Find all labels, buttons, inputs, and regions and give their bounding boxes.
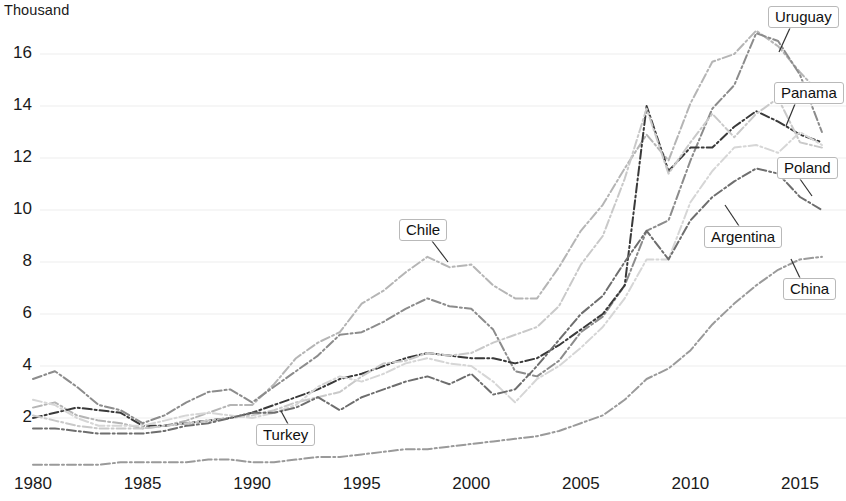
- y-axis-unit-label: Thousand: [4, 2, 69, 18]
- x-tick-label: 2000: [441, 474, 501, 494]
- y-tick-label: 2: [2, 407, 32, 427]
- series-line-china: [33, 257, 822, 465]
- line-chart: Thousand 246810121416 198019851990199520…: [0, 0, 846, 501]
- leader-line-argentina: [725, 205, 739, 226]
- leader-line-poland: [800, 179, 812, 196]
- x-tick-label: 2015: [770, 474, 830, 494]
- series-label-turkey: Turkey: [256, 424, 315, 446]
- series-label-chile: Chile: [399, 219, 447, 241]
- x-tick-label: 1980: [3, 474, 63, 494]
- series-lines: [33, 31, 822, 465]
- y-tick-label: 6: [2, 303, 32, 323]
- x-tick-label: 1995: [332, 474, 392, 494]
- x-tick-label: 1990: [222, 474, 282, 494]
- y-tick-label: 14: [2, 95, 32, 115]
- x-tick-label: 2005: [551, 474, 611, 494]
- series-line-argentina: [33, 132, 822, 426]
- series-label-poland: Poland: [777, 157, 838, 179]
- x-tick-label: 2010: [660, 474, 720, 494]
- series-label-china: China: [783, 278, 836, 300]
- leader-line-chile: [432, 241, 448, 262]
- series-label-panama: Panama: [774, 82, 844, 104]
- chart-plot-area: [0, 0, 846, 501]
- x-tick-label: 1985: [113, 474, 173, 494]
- leader-line-uruguay: [779, 28, 790, 52]
- series-label-uruguay: Uruguay: [768, 6, 839, 28]
- series-line-turkey: [33, 168, 822, 433]
- y-tick-label: 12: [2, 147, 32, 167]
- y-tick-label: 8: [2, 251, 32, 271]
- y-tick-label: 16: [2, 43, 32, 63]
- series-label-argentina: Argentina: [704, 226, 782, 248]
- series-line-panama: [33, 106, 822, 426]
- y-tick-label: 10: [2, 199, 32, 219]
- y-tick-label: 4: [2, 355, 32, 375]
